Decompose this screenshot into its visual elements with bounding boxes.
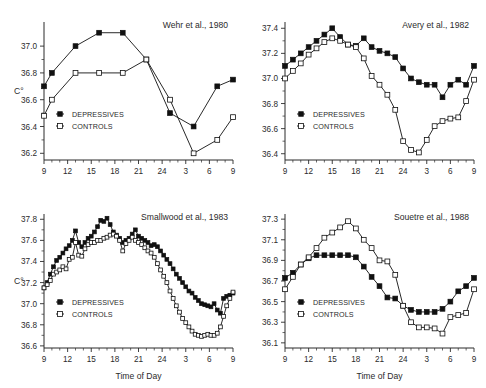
legend-label-depressives: DEPRESSIVES: [313, 110, 365, 119]
data-point-marker: [464, 311, 469, 316]
x-axis-tick-label: 24: [399, 167, 409, 176]
legend-marker-depressives: [56, 300, 64, 305]
x-axis-tick-label: 12: [63, 167, 73, 176]
y-axis-tick-label: 37.4: [262, 24, 278, 33]
data-point-marker: [283, 76, 288, 81]
x-axis-tick-label: 9: [283, 355, 288, 364]
data-point-marker: [338, 253, 343, 258]
data-point-marker: [212, 302, 216, 306]
data-point-marker: [330, 36, 335, 41]
data-point-marker: [409, 307, 414, 312]
x-axis-tick-label: 18: [351, 355, 361, 364]
data-point-marker: [409, 76, 414, 81]
chart-svg: Wehr et al., 198036.236.436.636.837.0912…: [0, 0, 243, 194]
data-point-marker: [472, 287, 477, 292]
chart-legend: DEPRESSIVESCONTROLS: [56, 110, 124, 131]
data-point-marker: [168, 111, 173, 116]
data-point-marker: [58, 255, 62, 259]
data-point-marker: [64, 267, 68, 271]
x-axis-tick-label: 6: [207, 355, 212, 364]
data-point-marker: [178, 276, 182, 280]
chart-title: Souetre et al., 1988: [394, 212, 469, 222]
chart-svg: Souetre et al., 198836.136.336.536.736.9…: [243, 194, 486, 388]
data-point-marker: [298, 51, 303, 56]
y-axis-tick-label: 36.6: [262, 125, 278, 134]
x-axis-tick-label: 24: [399, 355, 409, 364]
data-point-marker: [346, 253, 351, 258]
chart-panel-wehr: Wehr et al., 198036.236.436.636.837.0912…: [0, 0, 243, 194]
data-point-marker: [464, 99, 469, 104]
data-point-marker: [346, 219, 351, 224]
data-point-marker: [306, 45, 311, 50]
data-point-marker: [361, 56, 366, 61]
data-point-marker: [70, 255, 74, 259]
series-line-controls: [285, 38, 474, 152]
legend-label-depressives: DEPRESSIVES: [313, 298, 365, 307]
y-axis-tick-label: 36.2: [21, 149, 37, 158]
data-point-marker: [448, 82, 453, 87]
x-axis-tick-label: 15: [87, 167, 97, 176]
data-point-marker: [314, 253, 319, 258]
x-axis-tick-label: 21: [375, 355, 385, 364]
data-point-marker: [377, 48, 382, 53]
chart-svg: Avery et al., 198236.436.636.837.037.237…: [243, 0, 486, 194]
data-point-marker: [283, 64, 288, 69]
data-point-marker: [456, 115, 461, 120]
y-axis-tick-label: 36.5: [262, 298, 278, 307]
data-point-marker: [231, 290, 235, 294]
data-point-marker: [409, 148, 414, 153]
data-point-marker: [156, 262, 160, 266]
y-axis-tick-label: 36.8: [262, 100, 278, 109]
y-axis-tick-label: 37.1: [262, 236, 278, 245]
data-point-marker: [121, 249, 125, 253]
x-axis-tick-label: 24: [158, 355, 168, 364]
y-axis-tick-label: 37.4: [21, 257, 37, 266]
x-axis-tick-label: 9: [283, 167, 288, 176]
y-axis-tick-label: 36.8: [21, 321, 37, 330]
data-point-marker: [440, 306, 445, 311]
data-point-marker: [74, 241, 78, 245]
x-axis-tick-label: 21: [134, 167, 144, 176]
data-point-marker: [377, 258, 382, 263]
data-point-marker: [181, 317, 185, 321]
data-point-marker: [165, 257, 169, 261]
data-point-marker: [409, 320, 414, 325]
data-point-marker: [369, 274, 374, 279]
data-point-marker: [118, 238, 122, 242]
data-point-marker: [290, 274, 295, 279]
data-point-marker: [225, 304, 229, 308]
data-point-marker: [432, 124, 437, 129]
data-point-marker: [215, 138, 220, 143]
chart-legend: DEPRESSIVESCONTROLS: [297, 298, 365, 319]
y-axis-tick-label: 36.1: [262, 339, 278, 348]
data-point-marker: [168, 262, 172, 266]
data-point-marker: [401, 139, 406, 144]
y-axis-tick-label: 36.3: [262, 318, 278, 327]
data-point-marker: [377, 284, 382, 289]
x-axis-tick-label: 18: [351, 167, 361, 176]
x-axis-tick-label: 9: [472, 355, 477, 364]
legend-label-controls: CONTROLS: [72, 310, 113, 319]
data-point-marker: [159, 268, 163, 272]
legend-marker-controls: [297, 124, 305, 129]
x-axis-tick-label: 9: [472, 167, 477, 176]
legend-label-controls: CONTROLS: [313, 122, 354, 131]
chart-svg: Smallwood et al., 198336.636.837.037.237…: [0, 194, 243, 388]
data-point-marker: [314, 246, 319, 251]
data-point-marker: [171, 297, 175, 301]
x-axis-title: Time of Day: [115, 371, 162, 381]
data-point-marker: [219, 325, 223, 329]
data-point-marker: [424, 82, 429, 87]
series-line-controls: [44, 234, 233, 336]
x-axis-tick-label: 15: [328, 167, 338, 176]
legend-label-controls: CONTROLS: [313, 310, 354, 319]
data-point-marker: [330, 26, 335, 31]
data-point-marker: [178, 310, 182, 314]
legend-marker-controls: [56, 124, 64, 129]
x-axis-tick-label: 15: [87, 355, 97, 364]
x-axis-tick-label: 9: [231, 167, 236, 176]
x-axis-tick-label: 12: [63, 355, 73, 364]
data-point-marker: [385, 51, 390, 56]
data-point-marker: [105, 216, 109, 220]
data-point-marker: [416, 150, 421, 155]
